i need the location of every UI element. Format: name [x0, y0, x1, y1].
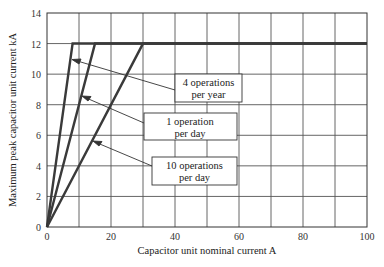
annotation-line1: 1 operation [166, 116, 214, 127]
x-tick: 100 [360, 231, 375, 242]
chart: 0 2 4 6 8 10 12 14 0 20 40 60 80 100 Cap… [0, 0, 384, 267]
y-tick: 0 [36, 222, 41, 233]
y-tick: 10 [31, 69, 41, 80]
y-tick: 2 [36, 191, 41, 202]
y-tick: 14 [31, 8, 41, 19]
y-tick: 6 [36, 130, 41, 141]
annotation-line1: 10 operations [166, 160, 223, 171]
annotation-10-operations-per-day: 10 operations per day [152, 157, 237, 185]
annotation-line2: per day [174, 128, 206, 139]
annotation-1-operation-per-day: 1 operation per day [144, 113, 237, 140]
x-tick: 40 [170, 231, 180, 242]
x-tick: 60 [234, 231, 244, 242]
annotation-4-operations-per-year: 4 operations per year [175, 74, 242, 102]
y-tick: 12 [31, 39, 41, 50]
y-axis-label: Maximum peak capacitor unit current kA [7, 33, 18, 207]
annotation-line2: per day [179, 172, 211, 183]
y-tick: 4 [36, 161, 41, 172]
x-tick: 20 [106, 231, 116, 242]
x-tick: 80 [298, 231, 308, 242]
x-tick-labels: 0 20 40 60 80 100 [45, 231, 375, 242]
y-tick: 8 [36, 100, 41, 111]
x-axis-label: Capacitor unit nominal current A [138, 245, 277, 256]
x-tick: 0 [45, 231, 50, 242]
y-tick-labels: 0 2 4 6 8 10 12 14 [31, 8, 41, 233]
annotation-line1: 4 operations [183, 77, 235, 88]
annotation-line2: per year [191, 89, 226, 100]
